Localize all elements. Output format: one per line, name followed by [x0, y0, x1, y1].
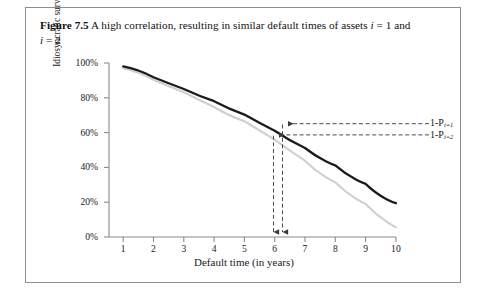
- x-axis-title: Default time (in years): [26, 256, 462, 268]
- annotation-label-i1-sub: i=1: [444, 121, 453, 128]
- xtick-label-4: 4: [206, 243, 222, 254]
- ytick-label-20: 20%: [64, 196, 98, 207]
- xtick-label-5: 5: [236, 243, 252, 254]
- xtick-label-6: 6: [267, 243, 283, 254]
- annotation-label-i1: 1-Pi=1: [430, 117, 453, 128]
- xtick-label-10: 10: [388, 243, 404, 254]
- y-axis-ticks: [104, 63, 109, 237]
- ytick-label-60: 60%: [64, 127, 98, 138]
- ytick-label-40: 40%: [64, 161, 98, 172]
- series-line-i2: [123, 68, 396, 227]
- xtick-label-9: 9: [358, 243, 374, 254]
- ytick-label-0: 0%: [64, 231, 98, 242]
- xtick-label-7: 7: [297, 243, 313, 254]
- y-axis-title: Idiosyncratic survival Prob Si: [52, 0, 62, 86]
- annotation-label-i2-main: 1-P: [430, 129, 444, 140]
- xtick-label-2: 2: [146, 243, 162, 254]
- annotation-label-i1-main: 1-P: [430, 117, 444, 128]
- ytick-label-80: 80%: [64, 92, 98, 103]
- chart-axes: [109, 63, 396, 237]
- y-axis-title-text: Idiosyncratic survival Prob Si: [52, 0, 62, 67]
- figure-container: Figure 7.5 A high correlation, resulting…: [25, 7, 461, 283]
- annotation-label-i2-sub: i=2: [444, 133, 453, 140]
- x-axis-title-text: Default time (in years): [194, 256, 294, 268]
- x-axis-ticks: [123, 237, 396, 242]
- xtick-label-3: 3: [176, 243, 192, 254]
- ytick-label-100: 100%: [64, 57, 98, 68]
- xtick-label-1: 1: [115, 243, 131, 254]
- xtick-label-8: 8: [327, 243, 343, 254]
- chart-plot-area: 100% 80% 60% 40% 20% 0% 1 2 3 4 5 6 7 8 …: [26, 8, 462, 284]
- annotation-label-i2: 1-Pi=2: [430, 129, 453, 140]
